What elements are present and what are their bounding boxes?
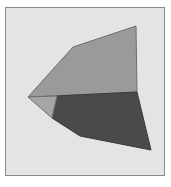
lower-dark-face bbox=[52, 92, 151, 150]
left-small-face bbox=[28, 96, 57, 118]
upper-light-face bbox=[28, 26, 137, 97]
polygon-figure bbox=[0, 0, 171, 187]
